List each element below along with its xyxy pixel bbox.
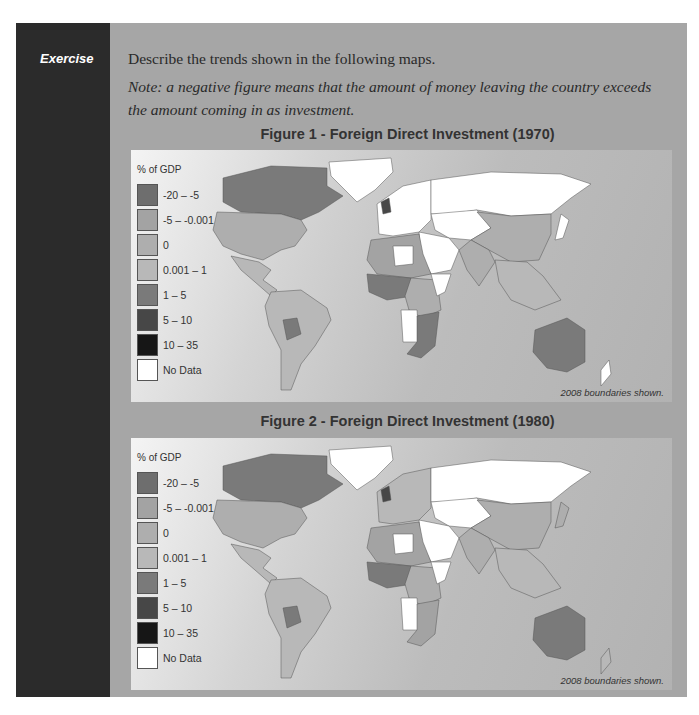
legend-label: -5 – -0.001 — [163, 214, 214, 226]
legend-label: 0.001 – 1 — [163, 552, 207, 564]
map-legend: % of GDP -20 – -5-5 – -0.00100.001 – 11 … — [137, 164, 214, 383]
region-russia — [431, 460, 591, 504]
legend-title: % of GDP — [137, 164, 214, 175]
region-se-asia — [495, 260, 561, 310]
legend-item: 5 – 10 — [137, 308, 214, 332]
legend-label: -5 – -0.001 — [163, 502, 214, 514]
legend-label: No Data — [163, 652, 202, 664]
region-central-america — [231, 544, 277, 584]
legend-item: No Data — [137, 646, 214, 670]
region-angola — [401, 310, 419, 342]
legend-swatch — [137, 184, 158, 206]
legend-item: 1 – 5 — [137, 283, 214, 307]
exercise-sidebar: Exercise — [16, 23, 110, 697]
region-libya — [393, 534, 413, 554]
region-russia — [431, 172, 591, 216]
legend-label: -20 – -5 — [163, 189, 199, 201]
legend-swatch — [137, 622, 158, 644]
region-usa — [213, 212, 307, 260]
legend-item: 0 — [137, 521, 214, 545]
region-usa — [213, 500, 307, 548]
region-australia — [533, 318, 585, 372]
legend-label: 10 – 35 — [163, 627, 198, 639]
legend-item: 10 – 35 — [137, 621, 214, 645]
map-legend: % of GDP -20 – -5-5 – -0.00100.001 – 11 … — [137, 452, 214, 671]
region-canada — [223, 454, 343, 508]
legend-label: 5 – 10 — [163, 602, 192, 614]
legend-label: 1 – 5 — [163, 577, 186, 589]
legend-swatch — [137, 234, 158, 256]
legend-swatch — [137, 284, 158, 306]
legend-item: -20 – -5 — [137, 471, 214, 495]
legend-label: 1 – 5 — [163, 289, 186, 301]
region-new-zealand — [601, 360, 611, 386]
legend-item: 0.001 – 1 — [137, 258, 214, 282]
legend-item: 1 – 5 — [137, 571, 214, 595]
boundary-note: 2008 boundaries shown. — [560, 387, 664, 398]
legend-swatch — [137, 334, 158, 356]
exercise-instruction: Describe the trends shown in the followi… — [128, 50, 435, 68]
legend-swatch — [137, 597, 158, 619]
legend-swatch — [137, 472, 158, 494]
legend-title: % of GDP — [137, 452, 214, 463]
legend-swatch — [137, 259, 158, 281]
legend-label: 0 — [163, 239, 169, 251]
legend-item: 0.001 – 1 — [137, 546, 214, 570]
legend-swatch — [137, 647, 158, 669]
region-japan — [555, 502, 569, 528]
legend-item: 10 – 35 — [137, 333, 214, 357]
legend-label: 5 – 10 — [163, 314, 192, 326]
figure-2-title: Figure 2 - Foreign Direct Investment (19… — [128, 413, 687, 429]
region-australia — [533, 606, 585, 660]
legend-swatch — [137, 522, 158, 544]
region-japan — [555, 214, 569, 240]
legend-item: -5 – -0.001 — [137, 208, 214, 232]
figure-2-map: % of GDP -20 – -5-5 – -0.00100.001 – 11 … — [131, 438, 672, 690]
legend-swatch — [137, 572, 158, 594]
region-angola — [401, 598, 419, 630]
region-new-zealand — [601, 648, 611, 674]
legend-label: 10 – 35 — [163, 339, 198, 351]
legend-item: 5 – 10 — [137, 596, 214, 620]
legend-swatch — [137, 497, 158, 519]
exercise-panel: Exercise Describe the trends shown in th… — [16, 23, 687, 697]
legend-swatch — [137, 547, 158, 569]
legend-item: 0 — [137, 233, 214, 257]
legend-swatch — [137, 359, 158, 381]
region-south-america — [265, 578, 331, 678]
legend-label: No Data — [163, 364, 202, 376]
legend-item: -20 – -5 — [137, 183, 214, 207]
exercise-note: Note: a negative figure means that the a… — [128, 75, 668, 121]
exercise-label: Exercise — [40, 51, 94, 66]
region-central-america — [231, 256, 277, 296]
legend-label: -20 – -5 — [163, 477, 199, 489]
region-libya — [393, 246, 413, 266]
legend-swatch — [137, 309, 158, 331]
boundary-note: 2008 boundaries shown. — [560, 675, 664, 686]
legend-label: 0.001 – 1 — [163, 264, 207, 276]
region-south-america — [265, 290, 331, 390]
figure-1-title: Figure 1 - Foreign Direct Investment (19… — [128, 126, 687, 142]
figure-1-map: % of GDP -20 – -5-5 – -0.00100.001 – 11 … — [131, 150, 672, 402]
legend-swatch — [137, 209, 158, 231]
legend-item: No Data — [137, 358, 214, 382]
region-canada — [223, 166, 343, 220]
legend-item: -5 – -0.001 — [137, 496, 214, 520]
region-se-asia — [495, 548, 561, 598]
legend-label: 0 — [163, 527, 169, 539]
